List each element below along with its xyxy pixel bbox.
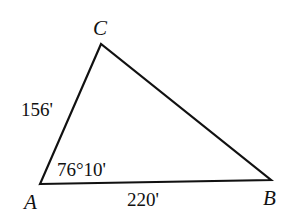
side-ab-length: 220' [127, 190, 159, 209]
triangle-diagram: C A B 156' 76°10' 220' [0, 0, 295, 221]
vertex-b-label: B [263, 188, 276, 209]
vertex-c-label: C [93, 18, 107, 39]
vertex-a-label: A [24, 192, 37, 213]
angle-a-measure: 76°10' [57, 160, 106, 179]
side-ac-length: 156' [21, 100, 53, 119]
